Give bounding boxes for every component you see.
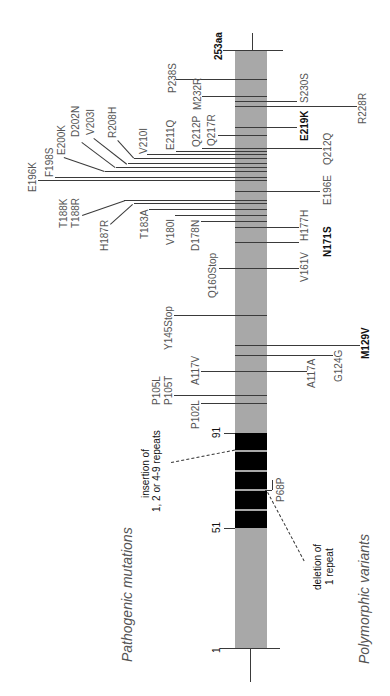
marker-M129V: [235, 345, 360, 346]
end-tick: [223, 50, 283, 51]
label-P68P: P68P: [276, 478, 286, 502]
leader-E200K: [64, 157, 105, 172]
label-E211Q: E211Q: [166, 120, 176, 150]
leader-R208H: [117, 140, 134, 159]
marker-G124G: [235, 355, 333, 356]
label-S230S: S230S: [300, 73, 310, 103]
marker-D202N: [116, 167, 267, 168]
label-Q212Q: Q212Q: [323, 133, 333, 165]
axis-repeat-end-label: 91: [212, 427, 222, 438]
label-V180I: V180I: [166, 219, 176, 245]
leader-P68P: [272, 480, 273, 490]
label-Y145Stop: Y145Stop: [164, 306, 174, 350]
label-Q212P: Q212P: [192, 116, 202, 147]
repeat-block-1: [235, 433, 267, 450]
marker-P105: [174, 395, 267, 396]
prion-protein-bar: [235, 50, 267, 648]
repeat-end-tick: [224, 433, 235, 434]
label-G124G: G124G: [334, 350, 344, 382]
label-D178N: D178N: [191, 220, 201, 251]
label-Q160Stop: Q160Stop: [208, 253, 218, 298]
marker-Y145Stop: [174, 315, 267, 316]
label-P102L: P102L: [191, 400, 201, 429]
marker-T183A: [149, 209, 267, 210]
marker-E219K: [235, 127, 297, 128]
label-T188R: T188R: [71, 198, 81, 228]
label-H187R: H187R: [100, 220, 110, 251]
marker-F198S: [55, 177, 267, 178]
leader-T188K: [82, 200, 125, 216]
pathogenic-title: Pathogenic mutations: [120, 527, 134, 662]
repeat-block-4: [235, 491, 267, 509]
marker-V210I: [147, 154, 267, 155]
label-R208H: R208H: [108, 107, 118, 138]
marker-E211Q: [176, 151, 267, 152]
label-D202N: D202N: [71, 106, 81, 137]
polymorphic-title: Polymorphic variants: [357, 534, 371, 664]
label-T188K: T188K: [59, 199, 69, 228]
axis-repeat-start-label: 51: [212, 522, 222, 533]
label-P238S: P238S: [168, 63, 178, 93]
marker-R228R: [235, 106, 357, 107]
label-E196E: E196E: [323, 175, 333, 205]
marker-H177H: [235, 227, 299, 228]
marker-E196E: [235, 191, 320, 192]
insertion-note-line1: insertion of: [140, 449, 152, 498]
label-V203I: V203I: [86, 109, 96, 135]
label-N171S: N171S: [323, 226, 333, 257]
repeat-block-3: [235, 472, 267, 489]
label-T183A: T183A: [140, 210, 150, 239]
axis-start-label: 1: [212, 647, 222, 653]
label-M232R: M232R: [193, 78, 203, 110]
label-H177H: H177H: [300, 210, 310, 241]
marker-V180I: [175, 215, 267, 216]
start-stem: [250, 648, 251, 682]
label-E219K: E219K: [300, 110, 310, 141]
marker-N171S: [235, 242, 299, 243]
leader-V203I: [93, 138, 127, 165]
marker-D178N: [201, 221, 267, 222]
axis-end-label: 253aa: [214, 32, 224, 60]
marker-Q217R: [218, 135, 267, 136]
marker-A117A: [235, 371, 307, 372]
marker-P68P: [265, 490, 272, 491]
repeat-block-2: [235, 452, 267, 470]
marker-V161V: [235, 268, 299, 269]
label-R228R: R228R: [358, 93, 368, 124]
label-F198S: F198S: [45, 148, 55, 177]
repeat-start-tick: [224, 528, 235, 529]
marker-S230S: [235, 101, 297, 102]
label-A117A: A117A: [307, 359, 317, 388]
label-E196K: E196K: [28, 162, 38, 192]
label-Q217R: Q217R: [207, 114, 217, 146]
marker-Q212Q: [235, 148, 322, 149]
marker-E196K: [38, 180, 267, 181]
insertion-note-line2: 1, 2 or 4-9 repeats: [151, 430, 163, 512]
leader-H187R: [110, 204, 133, 225]
deletion-note-line2: 1 repeat: [324, 548, 336, 585]
marker-E200K: [105, 171, 267, 172]
marker-T188R: [134, 203, 267, 204]
insertion-leader: [171, 450, 235, 463]
label-V161V: V161V: [300, 252, 310, 282]
deletion-leader: [267, 492, 305, 561]
marker-V203I: [128, 163, 267, 164]
label-V210I: V210I: [139, 128, 149, 154]
label-P105L: P105L: [152, 376, 162, 405]
label-P105T: P105T: [164, 376, 174, 405]
marker-P238S: [176, 79, 267, 80]
marker-M232R: [202, 96, 267, 97]
marker-R208H: [134, 158, 267, 159]
end-stem: [252, 33, 253, 50]
deletion-note-line1: deletion of: [312, 544, 324, 590]
marker-T188K: [124, 200, 267, 201]
label-M129V: M129V: [361, 327, 371, 359]
label-A117V: A117V: [191, 356, 201, 385]
repeat-block-5: [235, 511, 267, 528]
label-E200K: E200K: [57, 125, 67, 155]
marker-P102L: [201, 403, 267, 404]
